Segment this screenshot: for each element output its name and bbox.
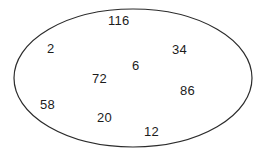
ellipse-shape — [0, 0, 261, 155]
number-item: 6 — [132, 59, 139, 73]
number-item: 2 — [47, 42, 54, 56]
number-item: 12 — [144, 125, 159, 139]
number-item: 86 — [180, 84, 195, 98]
number-item: 58 — [40, 98, 55, 112]
number-item: 34 — [172, 43, 187, 57]
diagram-canvas: 116 2 34 6 72 86 58 20 12 — [0, 0, 261, 155]
set-boundary-ellipse — [14, 9, 252, 147]
number-item: 20 — [97, 111, 112, 125]
number-item: 116 — [108, 14, 129, 28]
number-item: 72 — [92, 72, 107, 86]
